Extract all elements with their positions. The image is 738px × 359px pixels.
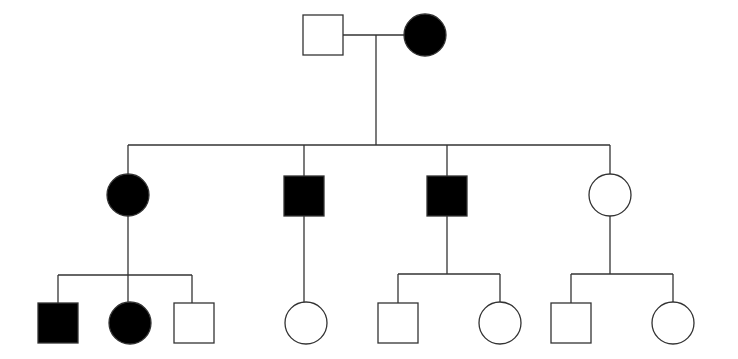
affected-female-circle-icon bbox=[107, 174, 149, 216]
individuals bbox=[38, 14, 694, 344]
unaffected-female-circle-icon bbox=[285, 302, 327, 344]
unaffected-female-circle-icon bbox=[589, 174, 631, 216]
affected-male-square-icon bbox=[38, 303, 78, 343]
affected-male-square-icon bbox=[284, 176, 324, 216]
unaffected-male-square-icon bbox=[174, 303, 214, 343]
unaffected-male-square-icon bbox=[551, 303, 591, 343]
connector-lines bbox=[58, 35, 673, 303]
unaffected-male-square-icon bbox=[378, 303, 418, 343]
unaffected-male-square-icon bbox=[303, 15, 343, 55]
affected-female-circle-icon bbox=[404, 14, 446, 56]
affected-male-square-icon bbox=[427, 176, 467, 216]
affected-female-circle-icon bbox=[109, 302, 151, 344]
pedigree-diagram bbox=[0, 0, 738, 359]
unaffected-female-circle-icon bbox=[652, 302, 694, 344]
unaffected-female-circle-icon bbox=[479, 302, 521, 344]
